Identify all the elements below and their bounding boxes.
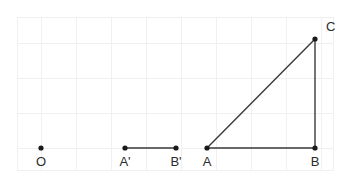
point-label-a: A: [203, 154, 212, 169]
point-dot-a: [204, 145, 209, 150]
point-label-a-prime: A': [119, 154, 130, 169]
point-dot-b-prime: [173, 145, 178, 150]
point-label-o: O: [36, 154, 46, 169]
point-dot-b: [312, 145, 317, 150]
geometry-figure: OA'B'ABC: [0, 0, 349, 185]
point-dot-a-prime: [122, 145, 127, 150]
point-label-b-prime: B': [170, 154, 181, 169]
figure-canvas: OA'B'ABC: [0, 0, 349, 185]
point-label-c: C: [326, 19, 335, 34]
point-label-b: B: [311, 154, 320, 169]
point-dot-o: [38, 145, 43, 150]
point-dot-c: [312, 36, 317, 41]
